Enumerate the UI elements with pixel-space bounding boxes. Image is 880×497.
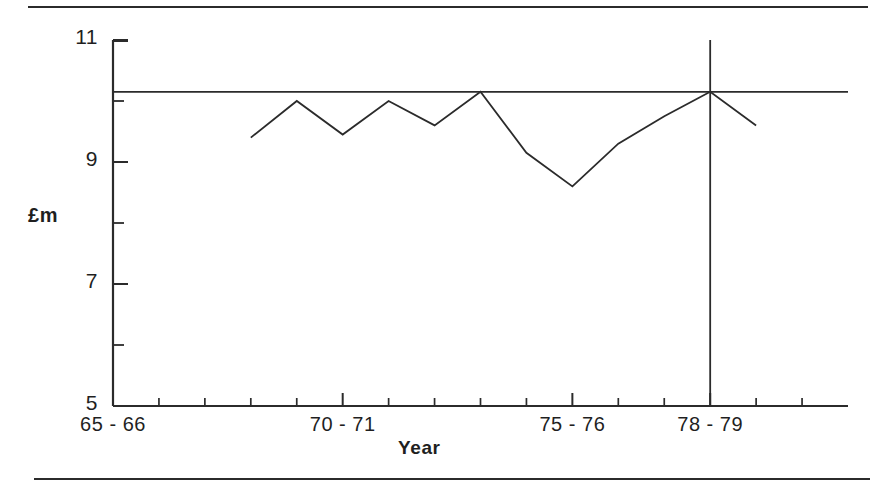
data-series-line: [251, 92, 756, 187]
y-tick-label-11: 11: [58, 25, 98, 49]
x-tick-label-10: 75 - 76: [502, 413, 642, 436]
y-axis-title: £m: [28, 204, 58, 227]
reference-lines: [113, 40, 848, 406]
y-tick-label-7: 7: [58, 269, 98, 293]
x-axis-title: Year: [398, 437, 441, 459]
x-tick-label-5: 70 - 71: [273, 413, 413, 436]
y-tick-label-5: 5: [58, 391, 98, 415]
axes: [113, 40, 848, 406]
x-tick-label-13: 78 - 79: [640, 413, 780, 436]
x-tick-label-0: 65 - 66: [43, 413, 183, 436]
y-tick-label-9: 9: [58, 147, 98, 171]
y-axis-ticks: [113, 40, 128, 406]
chart-figure: £m Year 11975 65 - 6670 - 7175 - 7678 - …: [0, 0, 880, 497]
x-axis-ticks: [113, 393, 802, 406]
